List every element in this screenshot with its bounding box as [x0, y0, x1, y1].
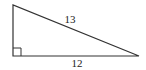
right-triangle — [13, 5, 139, 56]
base-label: 12 — [72, 57, 83, 69]
right-angle-marker — [13, 48, 21, 56]
triangle-diagram: 13 12 — [0, 0, 146, 70]
hypotenuse-label: 13 — [65, 13, 77, 25]
